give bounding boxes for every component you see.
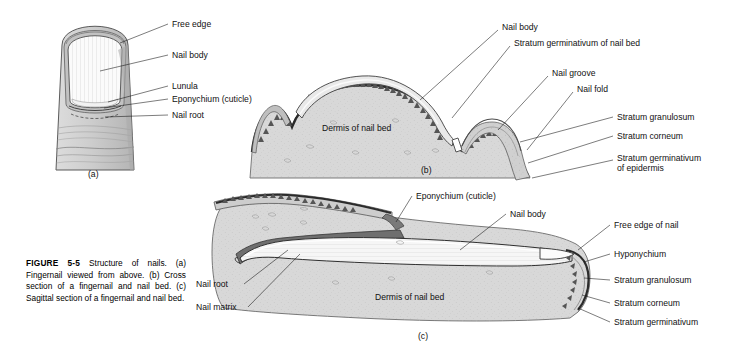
label-c-free-edge-of-nail: Free edge of nail: [614, 220, 679, 230]
figure-caption-label: FIGURE: [26, 258, 59, 268]
label-b-nail-groove: Nail groove: [552, 68, 596, 78]
label-b-stratum-germinativum-nail-bed: Stratum germinativum of nail bed: [514, 38, 640, 48]
label-c-nail-root: Nail root: [196, 279, 229, 289]
label-c-nail-body: Nail body: [510, 209, 547, 219]
label-b-stratum-corneum: Stratum corneum: [617, 131, 683, 141]
panel-a-id: (a): [88, 169, 99, 179]
figure-caption-number: 5-5: [68, 258, 81, 268]
figure-caption: FIGURE 5-5 Structure of nails. (a) Finge…: [26, 258, 186, 304]
panel-c-id: (c): [418, 331, 428, 341]
label-a-free-edge: Free edge: [172, 19, 211, 29]
label-b-stratum-germinativum-epidermis-line2: of epidermis: [617, 163, 664, 173]
label-b-stratum-germinativum-epidermis-line1: Stratum germinativum: [617, 153, 701, 163]
label-c-eponychium: Eponychium (cuticle): [416, 191, 496, 201]
label-b-stratum-granulosum: Stratum granulosum: [617, 112, 694, 122]
label-c-stratum-corneum: Stratum corneum: [614, 298, 680, 308]
label-b-nail-body: Nail body: [502, 22, 539, 32]
label-a-nail-root: Nail root: [172, 110, 205, 120]
label-b-nail-fold: Nail fold: [577, 84, 608, 94]
label-b-dermis: Dermis of nail bed: [322, 123, 391, 133]
label-c-stratum-granulosum: Stratum granulosum: [614, 275, 691, 285]
label-a-nail-body: Nail body: [172, 50, 209, 60]
label-c-nail-matrix: Nail matrix: [196, 302, 237, 312]
label-c-dermis: Dermis of nail bed: [375, 292, 444, 302]
figure-canvas: Free edge Nail body Lunula Eponychium (c…: [0, 0, 732, 353]
label-c-hyponychium: Hyponychium: [614, 249, 666, 259]
panel-b-id: (b): [421, 165, 432, 175]
label-a-lunula: Lunula: [172, 81, 198, 91]
panel-b-illustration: Dermis of nail bed: [250, 76, 530, 180]
label-c-stratum-germinativum: Stratum germinativum: [614, 317, 698, 327]
label-a-eponychium: Eponychium (cuticle): [172, 94, 252, 104]
